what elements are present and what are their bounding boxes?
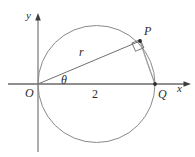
angle-theta-label: θ [61, 74, 67, 86]
point-label-Q: Q [158, 88, 167, 100]
x-axis-arrowhead [184, 81, 192, 86]
point-Q-dot [153, 82, 157, 86]
x-axis-label: x [177, 83, 182, 94]
point-label-P: P [144, 25, 151, 37]
point-label-O: O [25, 87, 34, 99]
figure-canvas [0, 0, 195, 157]
geometry-figure: y x O P Q r θ 2 [0, 0, 195, 157]
radius-label: r [79, 46, 84, 58]
point-P-dot [138, 39, 142, 43]
y-axis-arrowhead [35, 13, 41, 21]
diameter-length-label: 2 [92, 88, 98, 100]
right-angle-square [132, 39, 144, 51]
right-angle-marker [132, 39, 144, 51]
segment-OP [38, 41, 140, 84]
x-axis [8, 81, 191, 86]
y-axis-label: y [26, 10, 31, 21]
